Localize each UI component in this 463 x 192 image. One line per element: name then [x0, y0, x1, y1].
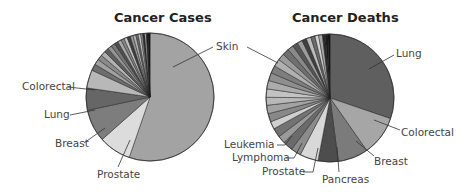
label-skin-cases: Skin — [216, 40, 238, 52]
label-prostate-cases: Prostate — [97, 168, 140, 180]
label-lung-deaths: Lung — [396, 47, 422, 59]
label-colorectal-cases: Colorectal — [22, 80, 75, 92]
label-prostate-deaths: Prostate — [262, 165, 305, 177]
label-lung-cases: Lung — [44, 108, 70, 120]
label-lymphoma-deaths: Lymphoma — [232, 151, 290, 163]
label-breast-cases: Breast — [55, 137, 89, 149]
label-breast-deaths: Breast — [374, 155, 408, 167]
label-colorectal-deaths: Colorectal — [401, 126, 454, 138]
label-leukemia-deaths: Leukemia — [224, 138, 275, 150]
label-pancreas-deaths: Pancreas — [322, 173, 369, 185]
cases-pie — [86, 33, 214, 161]
leader-skin-deaths — [247, 47, 278, 63]
deaths-pie — [266, 34, 394, 162]
